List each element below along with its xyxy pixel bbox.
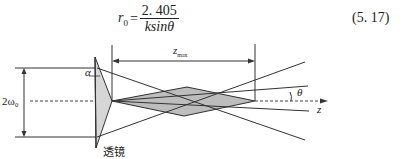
zmax-label: zmax: [173, 44, 188, 58]
axis-z-label: z: [317, 103, 321, 115]
arrow-down-icon: [22, 131, 27, 137]
arrow-right-icon: [248, 59, 255, 64]
theta-arc: [290, 92, 291, 101]
axicon-bessel-beam-diagram: [0, 0, 409, 159]
theta-label: θ: [297, 86, 302, 98]
arrow-up-icon: [22, 68, 27, 74]
beam-width-label: 2ω₀: [2, 95, 19, 107]
arrow-left-icon: [112, 59, 119, 64]
lens-label: 透镜: [103, 143, 125, 159]
alpha-label: α: [85, 66, 91, 78]
